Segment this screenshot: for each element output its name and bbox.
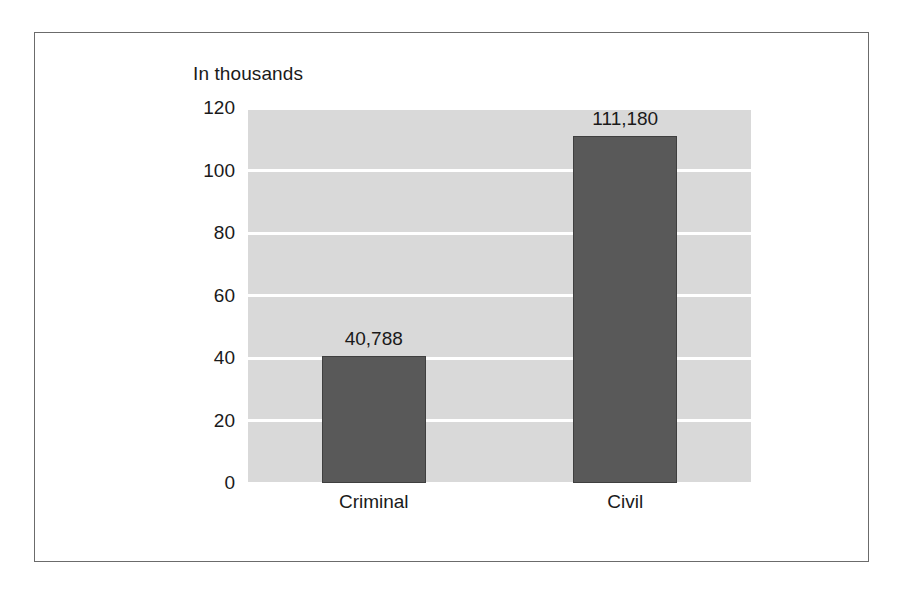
gridline [248,107,751,110]
bar-criminal[interactable] [322,356,426,483]
y-axis-tick-label: 120 [203,97,235,119]
bar-civil[interactable] [573,136,677,483]
y-axis: 020406080100120 [155,108,235,483]
y-axis-tick-label: 60 [214,285,235,307]
plot-area: 40,788111,180 [248,108,751,483]
chart-frame: In thousands 020406080100120 40,788111,1… [34,32,869,562]
y-axis-tick-label: 100 [203,160,235,182]
x-axis-category-label: Civil [607,491,643,513]
y-axis-tick-label: 80 [214,222,235,244]
x-axis-category-label: Criminal [339,491,409,513]
y-axis-tick-label: 0 [224,472,235,494]
chart-title: In thousands [193,63,303,85]
bar-value-label: 111,180 [592,108,658,130]
y-axis-tick-label: 40 [214,347,235,369]
bar-value-label: 40,788 [345,328,403,350]
y-axis-tick-label: 20 [214,410,235,432]
x-axis: CriminalCivil [248,491,751,531]
